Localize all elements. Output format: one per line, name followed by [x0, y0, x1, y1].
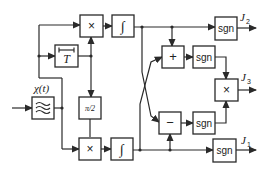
diff-block: − [159, 112, 181, 134]
int-top-block: ∫ [112, 15, 134, 37]
sgn-j2-block: sgn [215, 17, 237, 40]
sgn-j1-block: sgn [213, 139, 236, 162]
mult-top-block: × [80, 15, 103, 37]
sum-block: + [162, 46, 184, 68]
sum-label: + [169, 49, 177, 64]
output-j2-label: J 2 [240, 11, 250, 25]
sgn-diff-label: sgn [196, 118, 212, 129]
signal-label: χ(t) [33, 82, 50, 95]
block-diagram: T × ∫ π/2 × ∫ + − sgn sgn × sgn [0, 0, 266, 173]
junction-dots [37, 25, 173, 151]
output-j1-label: J 1 [241, 134, 251, 148]
mult-j3-label: × [223, 83, 230, 97]
int-bottom-block: ∫ [111, 138, 133, 160]
delay-block: T [55, 45, 78, 67]
sgn-sum-block: sgn [193, 46, 215, 68]
svg-text:2: 2 [246, 18, 250, 25]
phase-block: π/2 [79, 97, 101, 119]
sgn-sum-label: sgn [196, 52, 212, 63]
sgn-diff-block: sgn [193, 112, 215, 134]
mult-bottom-label: × [86, 142, 93, 156]
phase-label: π/2 [85, 104, 95, 113]
diff-label: − [166, 115, 174, 130]
mult-top-label: × [88, 19, 95, 33]
mult-bottom-block: × [79, 138, 101, 160]
filter-block [32, 97, 54, 119]
sgn-j2-label: sgn [218, 23, 234, 34]
output-j3-label: J 3 [241, 71, 251, 85]
svg-text:3: 3 [247, 78, 251, 85]
sgn-j1-label: sgn [216, 145, 232, 156]
mult-j3-block: × [215, 79, 238, 101]
svg-text:1: 1 [247, 141, 251, 148]
